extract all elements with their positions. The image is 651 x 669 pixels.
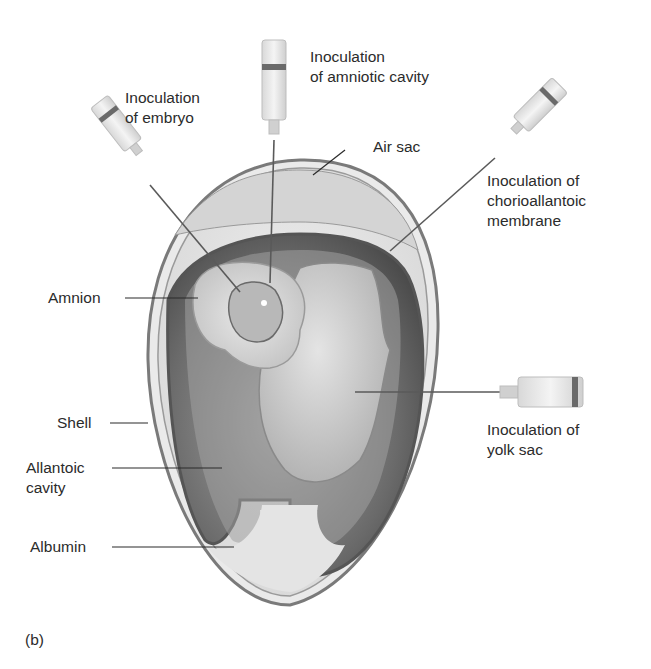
label-inoculation-of-amniotic-cavity: Inoculation of amniotic cavity	[310, 47, 429, 87]
label-inoculation-of-embryo: Inoculation of embryo	[125, 88, 200, 128]
egg-inoculation-diagram: Inoculation of embryo Inoculation of amn…	[0, 0, 651, 669]
label-allantoic-cavity: Allantoic cavity	[26, 458, 85, 498]
label-albumin: Albumin	[30, 537, 86, 557]
label-air-sac: Air sac	[373, 137, 420, 157]
label-inoculation-of-chorioallantoic-membrane: Inoculation of chorioallantoic membrane	[487, 171, 586, 231]
label-amnion: Amnion	[48, 288, 101, 308]
panel-label: (b)	[25, 630, 44, 650]
label-shell: Shell	[57, 413, 91, 433]
embryo	[229, 282, 283, 342]
label-inoculation-of-yolk-sac: Inoculation of yolk sac	[487, 420, 579, 460]
